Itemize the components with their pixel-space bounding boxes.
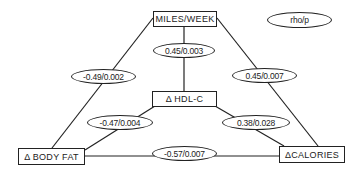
edge-label-hdl-calories: 0.38/0.028 (222, 115, 290, 130)
edge-label-miles-bodyfat: -0.49/0.002 (71, 69, 136, 84)
edge-label-hdl-bodyfat: -0.47/0.004 (87, 115, 153, 130)
legend-rho-p: rho/p (267, 12, 332, 28)
edge-label-bodyfat-calories: -0.57/0.007 (152, 146, 217, 161)
edge-label-miles-calories: 0.45/0.007 (232, 68, 297, 83)
node-hdl-c: Δ HDL-C (152, 91, 217, 107)
node-body-fat: Δ BODY FAT (18, 148, 85, 165)
edge-label-miles-hdl: 0.45/0.003 (153, 43, 215, 58)
node-miles-week: MILES/WEEK (153, 11, 217, 27)
node-calories: ΔCALORIES (279, 146, 345, 163)
